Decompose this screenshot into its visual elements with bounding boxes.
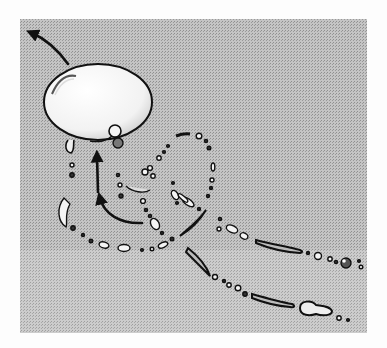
illustration [0, 0, 387, 348]
up-arrow-icon [97, 156, 98, 192]
drop-trail-drawing [0, 0, 387, 348]
